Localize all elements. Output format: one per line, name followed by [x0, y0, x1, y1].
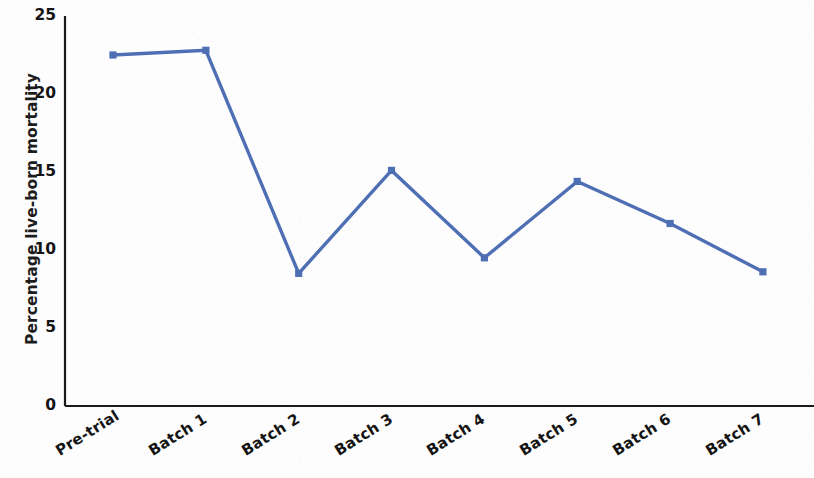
- x-tick-label: Batch 6: [609, 410, 674, 460]
- x-tick-label: Batch 4: [424, 410, 489, 460]
- x-tick-label: Batch 1: [145, 410, 210, 460]
- x-tick-label: Batch 7: [702, 410, 767, 460]
- x-tick-label: Batch 5: [516, 410, 581, 460]
- x-axis-tick-labels: Pre-trialBatch 1Batch 2Batch 3Batch 4Bat…: [0, 0, 814, 478]
- x-tick-label: Batch 2: [238, 410, 303, 460]
- line-chart: Percentage live-born mortality 252015105…: [0, 0, 814, 478]
- x-tick-label: Batch 3: [331, 410, 396, 460]
- x-tick-label: Pre-trial: [52, 406, 122, 459]
